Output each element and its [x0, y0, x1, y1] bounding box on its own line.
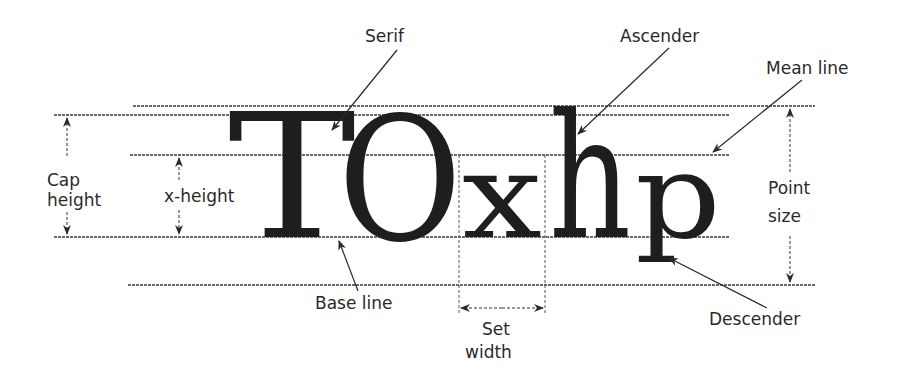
glyph-p: p — [635, 127, 721, 265]
glyph-h: h — [549, 77, 631, 278]
set-width-label-line1: Set — [482, 319, 510, 339]
glyph-T: T — [228, 77, 356, 278]
point-size-dimension: Point size — [768, 109, 811, 282]
descender-callout: Descender — [669, 258, 800, 329]
cap-height-label-line1: Cap — [47, 170, 80, 190]
serif-label: Serif — [365, 26, 405, 46]
x-height-dimension: x-height — [164, 158, 235, 234]
glyph-x: x — [462, 127, 542, 265]
set-width-dimension: Set width — [461, 308, 543, 362]
type-anatomy-diagram: T O x h p Cap height x-height Point size… — [0, 0, 921, 386]
glyph-O: O — [338, 80, 462, 281]
base-line-label: Base line — [315, 293, 392, 313]
point-size-label-line2: size — [768, 206, 801, 226]
mean-line-label: Mean line — [766, 58, 848, 78]
x-height-label: x-height — [164, 186, 235, 206]
descender-label: Descender — [709, 309, 800, 329]
point-size-label-line1: Point — [768, 178, 811, 198]
specimen-glyphs: T O x h p — [228, 77, 721, 281]
set-width-label-line2: width — [465, 342, 512, 362]
cap-height-label-line2: height — [47, 190, 102, 210]
ascender-label: Ascender — [620, 26, 699, 46]
mean-line-callout: Mean line — [713, 58, 848, 152]
cap-height-dimension: Cap height — [47, 118, 102, 234]
